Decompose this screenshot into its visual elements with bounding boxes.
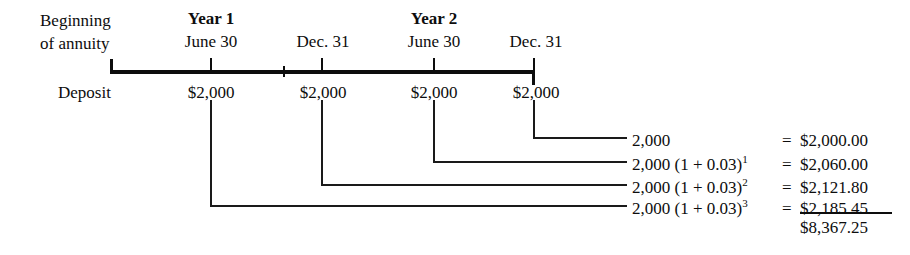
beginning-of-annuity-label-line1: Beginning: [40, 12, 111, 29]
formula-exponent-2: 1: [742, 153, 748, 165]
deposit-amount-1: $2,000: [151, 84, 271, 101]
formula-value-2: $2,060.00: [800, 155, 868, 175]
formula-expression-3: 2,000 (1 + 0.03)2: [632, 178, 748, 198]
formula-equals-2: =: [782, 155, 792, 175]
connector-horizontal-3: [433, 161, 627, 163]
formula-equals-1: =: [782, 131, 792, 151]
deposit-row-label: Deposit: [58, 84, 111, 101]
connector-vertical-2: [321, 100, 323, 186]
formula-expression-2: 2,000 (1 + 0.03)1: [632, 155, 748, 175]
formula-expression-1: 2,000: [632, 131, 670, 151]
period-year-label-3: Year 2: [374, 10, 494, 27]
formula-exponent-4: 3: [742, 197, 748, 209]
period-date-label-1: June 30: [151, 33, 271, 50]
connector-vertical-1: [210, 100, 212, 207]
connector-horizontal-4: [533, 137, 627, 139]
timeline-tick-4: [533, 58, 535, 71]
connector-vertical-4: [533, 100, 535, 139]
timeline-tick-1: [210, 58, 212, 71]
formula-value-1: $2,000.00: [800, 131, 868, 151]
timeline-tick-2: [321, 58, 323, 71]
connector-horizontal-2: [321, 184, 627, 186]
period-date-label-4: Dec. 31: [476, 33, 596, 50]
timeline-tick-3: [433, 58, 435, 71]
total-underline: [800, 212, 892, 214]
formula-exponent-3: 2: [742, 176, 748, 188]
total-value: $8,367.25: [800, 218, 868, 238]
formula-expression-4: 2,000 (1 + 0.03)3: [632, 199, 748, 219]
deposit-amount-2: $2,000: [263, 84, 383, 101]
connector-vertical-3: [433, 100, 435, 163]
period-date-label-2: Dec. 31: [263, 33, 383, 50]
deposit-amount-4: $2,000: [476, 84, 596, 101]
connector-horizontal-1: [210, 205, 627, 207]
annuity-timeline-diagram: Beginning of annuity Deposit Year 1 Year…: [0, 0, 910, 255]
timeline-year-boundary-tick: [283, 66, 285, 77]
formula-value-3: $2,121.80: [800, 178, 868, 198]
formula-equals-4: =: [782, 199, 792, 219]
period-year-label-1: Year 1: [151, 10, 271, 27]
beginning-of-annuity-label-line2: of annuity: [40, 35, 109, 52]
formula-value-4: $2,185.45: [800, 199, 868, 219]
formula-equals-3: =: [782, 178, 792, 198]
